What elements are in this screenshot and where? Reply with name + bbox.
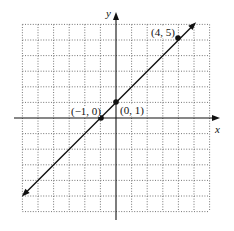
point-label-neg1-0: (−1, 0) (71, 105, 101, 118)
y-axis: y (105, 7, 119, 220)
y-axis-label: y (105, 7, 111, 19)
point-label-4-5: (4, 5) (151, 26, 175, 39)
x-axis-arrow-icon (212, 115, 220, 121)
y-axis-arrow-icon (113, 12, 119, 20)
coordinate-plane: x y (−1, 0) (0, 1) (4, 5) (0, 0, 234, 231)
function-line (22, 22, 196, 196)
point-0-1 (113, 99, 119, 105)
x-axis-label: x (214, 123, 220, 135)
point-label-0-1: (0, 1) (120, 104, 144, 117)
point-4-5 (175, 35, 181, 41)
x-axis: x (14, 115, 220, 135)
